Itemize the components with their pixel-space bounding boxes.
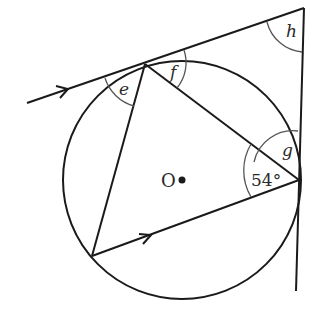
angle-label-h: h bbox=[286, 21, 297, 41]
triangle-side-ab bbox=[145, 64, 299, 180]
angle-arc-f bbox=[177, 50, 186, 88]
angle-label-g: g bbox=[282, 140, 293, 160]
centre-label: O bbox=[161, 170, 176, 191]
angle-label-f: f bbox=[168, 62, 179, 82]
angle-label-e: e bbox=[119, 79, 129, 99]
centre-point bbox=[179, 177, 186, 184]
geometry-diagram: e f h g 54° O bbox=[0, 0, 321, 315]
triangle-side-cb bbox=[92, 180, 299, 256]
angle-label-54: 54° bbox=[251, 170, 281, 190]
angle-arc-54 bbox=[244, 144, 251, 197]
